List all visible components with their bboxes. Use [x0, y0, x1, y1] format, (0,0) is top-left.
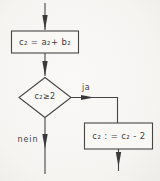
- entry-arrowhead-icon: [42, 15, 47, 30]
- yes-branch-arrowhead-icon: [81, 95, 94, 100]
- no-branch-arrowhead-icon: [42, 134, 47, 149]
- to-decision-arrowhead-icon: [42, 61, 47, 76]
- yes-branch-edge-line: [71, 98, 118, 124]
- no-branch-label: nein: [14, 134, 42, 145]
- yes-branch-label: ja: [76, 83, 96, 93]
- decrement-box-label: c₂ : = c₂ - 2: [85, 123, 153, 149]
- exit-right-arrowhead-icon: [116, 152, 121, 167]
- flowchart: c₂ = a₂+ b₂ c₂≥2 c₂ : = c₂ - 2 ja nein: [0, 0, 160, 181]
- decision-diamond-label: c₂≥2: [19, 89, 71, 105]
- assignment-box-label: c₂ = a₂+ b₂: [11, 31, 79, 53]
